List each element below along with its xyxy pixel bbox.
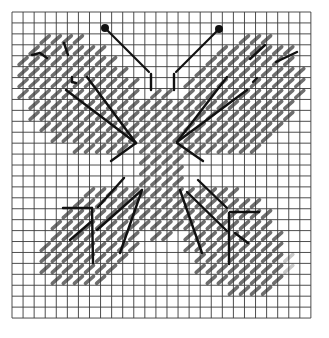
- backstitch-line: [72, 82, 76, 83]
- antennae: [101, 24, 223, 72]
- chart-grid: [12, 12, 311, 318]
- antenna-knob-icon: [101, 24, 109, 32]
- antenna-line: [176, 29, 219, 72]
- butterfly-stitch-chart: [0, 0, 329, 338]
- antenna-knob-icon: [215, 25, 223, 33]
- backstitch-line: [92, 208, 93, 263]
